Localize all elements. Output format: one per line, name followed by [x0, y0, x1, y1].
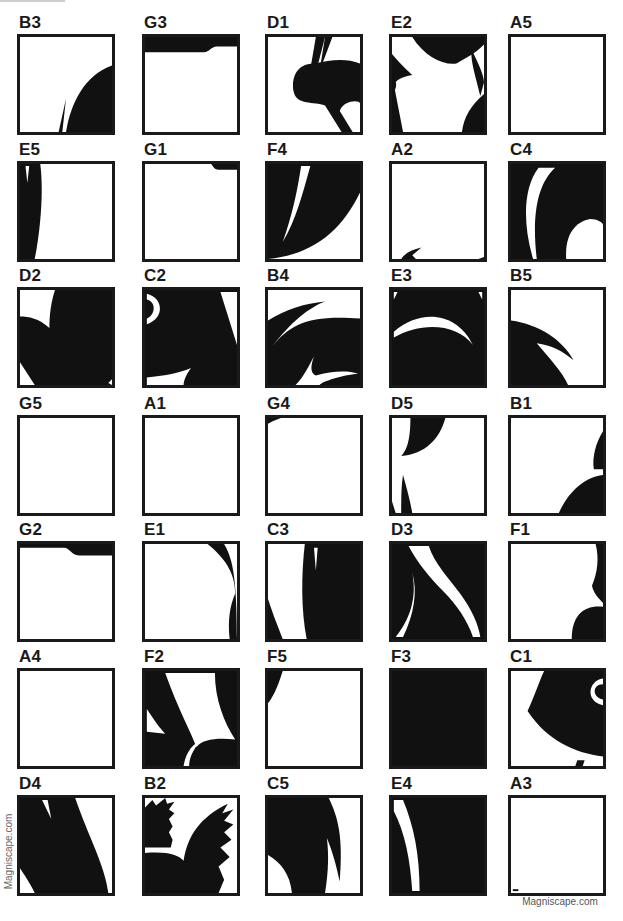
puzzle-tile: F3 [389, 648, 487, 770]
tile-label: E2 [391, 14, 412, 32]
puzzle-tile: D4 [17, 775, 115, 897]
tile-image [265, 795, 363, 896]
tile-label: B3 [19, 14, 41, 32]
tile-label: E3 [391, 267, 412, 285]
tile-label: E4 [391, 775, 412, 793]
tile-label: G3 [144, 14, 167, 32]
tile-label: B4 [267, 267, 289, 285]
tile-image [508, 668, 606, 769]
puzzle-tile: B5 [508, 267, 606, 389]
tile-image [17, 795, 115, 896]
tile-label: A4 [19, 648, 41, 666]
tile-image [142, 287, 240, 388]
puzzle-tile: G5 [17, 395, 115, 517]
tile-image [265, 668, 363, 769]
puzzle-tile: A4 [17, 648, 115, 770]
tile-image [17, 34, 115, 135]
puzzle-tile: D1 [265, 14, 363, 136]
puzzle-tile: A2 [389, 141, 487, 263]
tile-image [508, 415, 606, 516]
tile-image [265, 415, 363, 516]
tile-image [265, 34, 363, 135]
tile-label: A1 [144, 395, 166, 413]
tile-image [389, 287, 487, 388]
tile-label: F1 [510, 521, 530, 539]
tile-image [389, 161, 487, 262]
tile-image [142, 795, 240, 896]
puzzle-tile: G1 [142, 141, 240, 263]
tile-image [142, 668, 240, 769]
tile-image [17, 541, 115, 642]
puzzle-tile: B3 [17, 14, 115, 136]
puzzle-tile: E5 [17, 141, 115, 263]
puzzle-tile: C3 [265, 521, 363, 643]
tile-image [142, 34, 240, 135]
tile-label: E5 [19, 141, 40, 159]
tile-image [508, 541, 606, 642]
tile-image [508, 161, 606, 262]
tile-label: D1 [267, 14, 289, 32]
tile-label: C1 [510, 648, 532, 666]
tile-image [17, 668, 115, 769]
tile-image [508, 34, 606, 135]
puzzle-tile: G4 [265, 395, 363, 517]
puzzle-tile: B2 [142, 775, 240, 897]
puzzle-tile: A3 [508, 775, 606, 897]
tile-label: A3 [510, 775, 532, 793]
puzzle-tile: C1 [508, 648, 606, 770]
tile-label: C3 [267, 521, 289, 539]
tile-label: A5 [510, 14, 532, 32]
tile-image [17, 287, 115, 388]
tile-label: F4 [267, 141, 287, 159]
tile-label: D3 [391, 521, 413, 539]
tile-image [389, 415, 487, 516]
tile-image [17, 161, 115, 262]
top-gray-bar [0, 0, 65, 2]
watermark-bottom: Magniscape.com [520, 896, 600, 907]
puzzle-tile: E2 [389, 14, 487, 136]
tile-image [508, 795, 606, 896]
tile-image [265, 541, 363, 642]
tile-image [17, 415, 115, 516]
tile-image [265, 161, 363, 262]
tile-label: D5 [391, 395, 413, 413]
tile-label: D4 [19, 775, 41, 793]
tile-label: A2 [391, 141, 413, 159]
tile-image [389, 795, 487, 896]
puzzle-tile: E3 [389, 267, 487, 389]
puzzle-tile: D3 [389, 521, 487, 643]
tile-label: D2 [19, 267, 41, 285]
tile-label: B5 [510, 267, 532, 285]
puzzle-tile: E1 [142, 521, 240, 643]
puzzle-tile: C2 [142, 267, 240, 389]
puzzle-tile: A5 [508, 14, 606, 136]
puzzle-tile: F2 [142, 648, 240, 770]
puzzle-tile: D5 [389, 395, 487, 517]
puzzle-tile: B4 [265, 267, 363, 389]
puzzle-tile: C5 [265, 775, 363, 897]
tile-label: E1 [144, 521, 165, 539]
tile-label: G2 [19, 521, 42, 539]
tile-label: B1 [510, 395, 532, 413]
puzzle-tile: G3 [142, 14, 240, 136]
watermark-side: Magniscape.com [3, 807, 14, 897]
puzzle-tile: A1 [142, 395, 240, 517]
tile-label: C2 [144, 267, 166, 285]
puzzle-tile: D2 [17, 267, 115, 389]
tile-label: G4 [267, 395, 290, 413]
tile-label: F2 [144, 648, 164, 666]
tile-label: C4 [510, 141, 532, 159]
puzzle-tile: C4 [508, 141, 606, 263]
puzzle-tile: B1 [508, 395, 606, 517]
tile-label: G1 [144, 141, 167, 159]
tile-image [508, 287, 606, 388]
tile-image [265, 287, 363, 388]
tile-image [389, 34, 487, 135]
tile-label: F3 [391, 648, 411, 666]
tile-image [142, 161, 240, 262]
tile-image [389, 668, 487, 769]
tile-label: C5 [267, 775, 289, 793]
tile-image [142, 415, 240, 516]
tile-image [389, 541, 487, 642]
puzzle-tile: E4 [389, 775, 487, 897]
